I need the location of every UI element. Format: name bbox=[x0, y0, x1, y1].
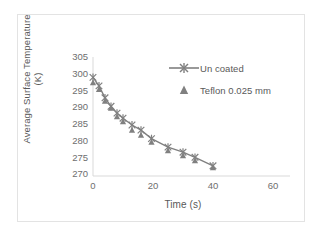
data-point-uncoated bbox=[165, 143, 172, 151]
legend-marker-triangle-icon bbox=[168, 83, 200, 97]
data-point-uncoated bbox=[148, 135, 155, 143]
data-point-uncoated bbox=[138, 126, 145, 134]
legend-item-uncoated: Un coated bbox=[168, 57, 298, 79]
data-point-uncoated bbox=[108, 102, 115, 110]
data-point-uncoated bbox=[96, 82, 103, 90]
data-point-uncoated bbox=[90, 74, 97, 82]
data-point-uncoated bbox=[114, 109, 121, 117]
legend-item-teflon: Teflon 0.025 mm bbox=[168, 79, 298, 101]
legend-label-teflon: Teflon 0.025 mm bbox=[200, 85, 271, 96]
data-point-uncoated bbox=[102, 94, 109, 102]
data-point-uncoated bbox=[192, 153, 199, 161]
data-point-uncoated bbox=[180, 148, 187, 156]
data-point-uncoated bbox=[120, 114, 127, 122]
legend-label-uncoated: Un coated bbox=[200, 63, 244, 74]
plot-area bbox=[0, 0, 320, 237]
data-point-uncoated bbox=[210, 162, 217, 170]
data-point-uncoated bbox=[129, 121, 136, 129]
legend-marker-asterisk-cross-icon bbox=[168, 61, 200, 75]
chart-figure: Average Surface Temperature(K) 305 300 2… bbox=[0, 0, 320, 237]
chart-legend: Un coated Teflon 0.025 mm bbox=[168, 57, 298, 101]
